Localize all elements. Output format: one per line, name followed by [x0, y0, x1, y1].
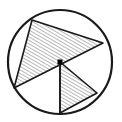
- center-point-marker: [58, 60, 63, 65]
- figure-canvas: Two hatched triangles inscribed in a cir…: [0, 0, 122, 122]
- geometry-figure: Two hatched triangles inscribed in a cir…: [0, 0, 122, 122]
